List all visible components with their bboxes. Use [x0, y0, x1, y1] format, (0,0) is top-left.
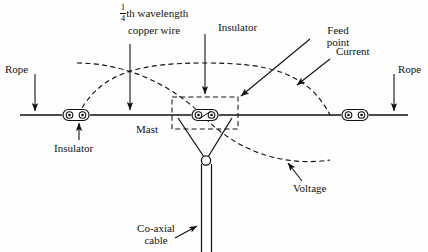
leader-feed-point [241, 39, 310, 96]
label-feed-point-line1: Feed [312, 24, 364, 36]
label-mast: Mast [136, 123, 158, 135]
voltage-curve-left-arc [77, 63, 205, 118]
label-rope-left: Rope [5, 63, 28, 75]
label-coax-cable: Co-axial cable [125, 222, 187, 247]
fraction-denominator: 4 [120, 14, 127, 23]
label-coax-line2: cable [125, 234, 187, 246]
label-copper-wire: copper wire [92, 24, 216, 36]
label-current: Current [336, 45, 370, 57]
label-coax-line1: Co-axial [125, 222, 187, 234]
antenna-diagram: 1 4 th wavelength copper wire Insulator … [0, 0, 428, 252]
current-curve [78, 63, 330, 115]
label-insulator-left: Insulator [54, 142, 93, 154]
insulator-left [63, 110, 89, 121]
mast-apex-ring [201, 156, 210, 165]
label-quarter-wave-suffix: th wavelength [126, 7, 188, 19]
fraction-one-quarter: 1 4 [120, 3, 127, 23]
insulator-center [192, 110, 218, 121]
mast [178, 118, 232, 165]
fraction-numerator: 1 [120, 3, 127, 12]
insulator-right [342, 110, 368, 121]
label-insulator-top: Insulator [218, 21, 257, 33]
voltage-curve-right-arc [205, 118, 330, 162]
label-voltage: Voltage [293, 182, 326, 194]
leader-current [297, 59, 330, 85]
coax-cable [202, 164, 212, 252]
label-quarter-wave: 1 4 th wavelength copper wire [92, 4, 216, 36]
leader-voltage [288, 163, 302, 181]
label-rope-right: Rope [398, 63, 421, 75]
